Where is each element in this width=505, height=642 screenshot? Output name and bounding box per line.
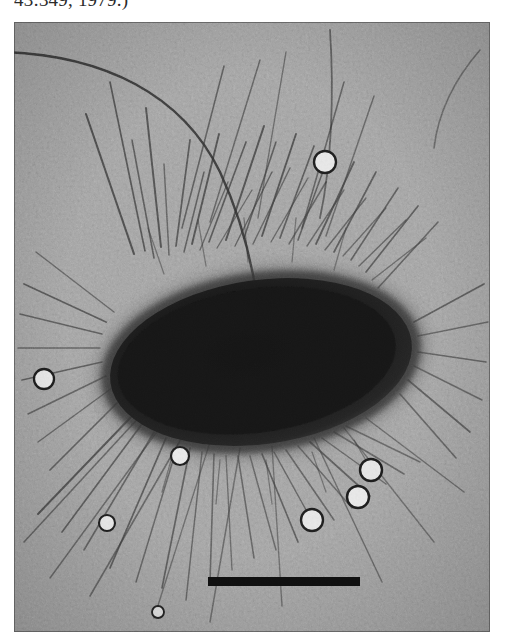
micrograph-plate [14,22,490,632]
page-margin-bottom [0,632,505,642]
micrograph-canvas [14,22,490,632]
plate-vignette [14,22,490,632]
page-margin-right [490,22,505,632]
figure-caption-tail: 43:349, 1979.) [14,0,314,11]
